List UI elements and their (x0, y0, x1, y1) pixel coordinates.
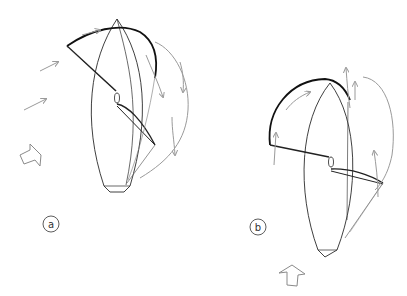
figure-a: a (20, 19, 188, 232)
figure-b: b (250, 68, 393, 286)
airflow-arrows-a (24, 30, 188, 178)
spinnaker-a (67, 28, 156, 78)
airflow-arrows-b (274, 68, 393, 197)
diagram-canvas: a (0, 0, 407, 296)
label-badge-a: a (43, 216, 59, 232)
hull-a (91, 19, 142, 192)
wind-arrow-a-icon (20, 144, 41, 166)
wind-arrow-b-icon (279, 265, 305, 286)
spinnaker-b (270, 79, 350, 145)
boom-b (270, 145, 383, 184)
label-badge-b: b (250, 219, 266, 235)
svg-text:b: b (255, 222, 261, 233)
svg-text:a: a (48, 219, 54, 230)
